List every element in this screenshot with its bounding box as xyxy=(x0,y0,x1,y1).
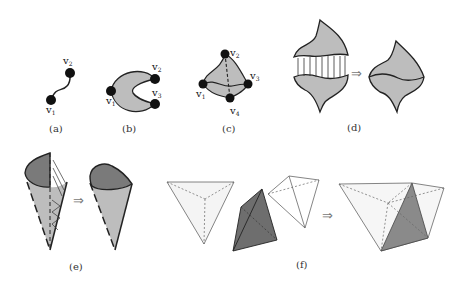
gray-region xyxy=(111,72,155,112)
vertex-label-v1: v1 xyxy=(195,88,205,100)
vertex-label-v2: v2 xyxy=(62,55,73,67)
panel-c: v2 v3 v1 v4 (c) xyxy=(195,47,260,134)
dark-tetrahedron xyxy=(233,189,277,251)
implies-arrow: ⇒ xyxy=(322,208,333,223)
closed-cone-top xyxy=(90,164,132,189)
caption-f: (f) xyxy=(296,259,308,270)
caption-e: (e) xyxy=(69,261,83,272)
right-tetrahedron xyxy=(268,176,319,228)
vertex-v2 xyxy=(221,50,230,59)
vertex-v4 xyxy=(226,94,235,103)
vertex-v2 xyxy=(65,68,75,78)
vertex-v3 xyxy=(150,99,160,109)
bottom-piece xyxy=(294,75,348,112)
implies-arrow: ⇒ xyxy=(73,193,84,208)
vertex-v2 xyxy=(150,74,160,84)
panel-b: v2 v3 v1 (b) xyxy=(105,61,162,134)
vertex-label-v3: v3 xyxy=(249,70,260,82)
caption-c: (c) xyxy=(222,123,236,134)
vertex-label-v1: v1 xyxy=(45,104,55,116)
panel-e: ⇒ (e) xyxy=(25,153,132,272)
caption-d: (d) xyxy=(347,122,361,133)
vertex-label-v2: v2 xyxy=(229,47,240,59)
vertex-label-v2: v2 xyxy=(151,61,162,73)
caption-a: (a) xyxy=(49,123,63,134)
panel-d: ⇒ (d) xyxy=(294,20,424,133)
panel-f: ⇒ (f) xyxy=(167,176,444,270)
vertex-label-v3: v3 xyxy=(151,87,162,99)
figure-canvas: v2 v1 (a) v2 v3 v1 (b) v2 v3 v1 v4 (c) xyxy=(0,0,467,282)
top-piece xyxy=(294,20,348,57)
caption-b: (b) xyxy=(122,123,136,134)
cone-flap xyxy=(25,153,50,187)
vertex-label-v4: v4 xyxy=(229,105,240,117)
implies-arrow: ⇒ xyxy=(351,66,362,81)
merged-shape xyxy=(369,41,424,112)
panel-a: v2 v1 (a) xyxy=(45,55,75,134)
left-tetrahedron xyxy=(167,182,234,244)
